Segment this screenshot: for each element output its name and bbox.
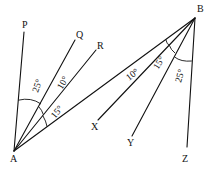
angle-arc-XBY xyxy=(169,45,175,53)
point-label-B: B xyxy=(197,3,204,14)
angle-arc-QAR xyxy=(39,106,44,114)
point-label-R: R xyxy=(97,40,104,51)
ray-AP xyxy=(14,32,24,151)
angle-label-PAQ: 25° xyxy=(30,78,44,94)
geometry-diagram: A B P Q R X Y Z 25° 10° 15° 10° 15° 25° xyxy=(0,0,211,169)
point-label-Y: Y xyxy=(127,137,134,148)
point-label-X: X xyxy=(91,121,99,132)
ray-BY xyxy=(132,18,195,136)
ray-BZ xyxy=(187,18,195,147)
point-label-Q: Q xyxy=(76,29,84,40)
angle-arc-ABX xyxy=(166,40,170,46)
angle-label-XBY: 15° xyxy=(151,54,167,71)
angle-label-RAB: 15° xyxy=(49,104,65,121)
angle-arc-RAB xyxy=(43,116,47,127)
angle-label-QAR: 10° xyxy=(55,74,70,91)
ray-AQ xyxy=(14,40,75,151)
point-label-P: P xyxy=(22,19,28,30)
angle-arc-YBZ xyxy=(175,57,192,61)
point-label-Z: Z xyxy=(182,153,188,164)
ray-AR xyxy=(14,50,96,151)
point-label-A: A xyxy=(10,153,18,164)
angle-arc-PAQ xyxy=(18,99,41,104)
ray-BX xyxy=(98,18,195,120)
angle-label-YBZ: 25° xyxy=(173,68,186,84)
